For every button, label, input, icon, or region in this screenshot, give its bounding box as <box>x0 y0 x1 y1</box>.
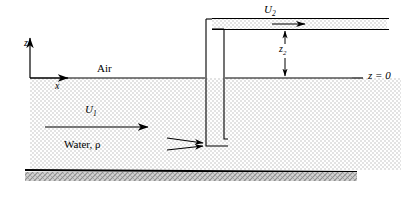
upper-velocity-symbol: U <box>264 3 272 15</box>
z2-label: z2 <box>279 44 286 57</box>
lower-velocity-symbol: U <box>85 103 93 115</box>
coordinate-axes <box>30 38 68 78</box>
x-axis-label: x <box>55 81 59 91</box>
z2-subscript: 2 <box>283 49 286 56</box>
upper-velocity-label: U2 <box>264 4 276 18</box>
diagram-canvas <box>0 0 401 198</box>
datum-label: z = 0 <box>368 70 391 81</box>
air-label: Air <box>97 63 112 74</box>
lower-velocity-label: U1 <box>85 104 97 118</box>
z-axis-label: z <box>24 38 28 48</box>
fluid-label: Water, ρ <box>64 139 101 150</box>
upper-velocity-subscript: 2 <box>272 9 276 18</box>
water-body <box>30 78 401 170</box>
fluid-mechanics-diagram: z x Air U1 Water, ρ U2 z2 z = 0 <box>0 0 401 198</box>
hatched-channel-bed <box>25 170 357 181</box>
lower-velocity-subscript: 1 <box>93 109 97 118</box>
